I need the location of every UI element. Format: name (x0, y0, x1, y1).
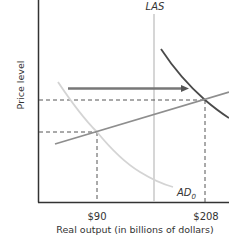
x-tick-208: $208 (193, 211, 218, 222)
ad1-curve (161, 49, 229, 118)
ad0-curve (58, 82, 173, 187)
las-label: LAS (146, 1, 165, 12)
shift-arrow-head-icon (181, 85, 189, 92)
y-axis-title: Price level (15, 61, 26, 110)
x-tick-90: $90 (87, 211, 106, 222)
ad-as-diagram: LAS AD0 $90 $208 Real output (in billion… (0, 0, 229, 241)
x-axis-title: Real output (in billions of dollars) (56, 224, 213, 235)
ad0-label: AD0 (176, 187, 197, 201)
